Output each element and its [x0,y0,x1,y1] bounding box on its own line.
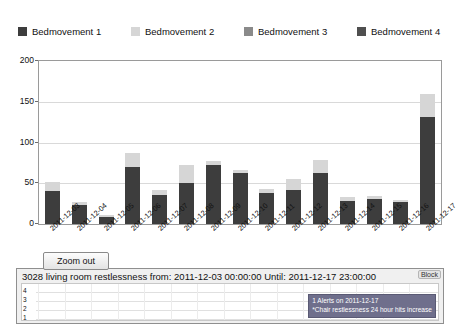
y-tick-label: 200 [20,55,34,65]
lower-panel-title: 3028 living room restlessness from: 2011… [22,271,376,282]
bar-group[interactable] [286,61,301,224]
y-tick-label: 50 [25,177,34,187]
legend-swatch-bedmovement-2 [131,27,140,36]
plot-area [38,60,442,225]
alert-tooltip-line1: 1 Alerts on 2011-12-17 [312,297,432,306]
block-tab[interactable]: Block [418,270,441,279]
mini-vertical-line [303,284,304,320]
bar-group[interactable] [45,61,60,224]
bar-segment[interactable] [420,94,435,118]
bar-segment[interactable] [286,179,301,190]
bar-segment[interactable] [259,189,274,193]
bar-segment[interactable] [179,165,194,183]
mini-vertical-line [38,284,39,320]
bar-group[interactable] [340,61,355,224]
legend-item-bedmovement-1[interactable]: Bedmovement 1 [18,24,101,38]
legend-swatch-bedmovement-1 [18,27,27,36]
legend-label-bedmovement-2: Bedmovement 2 [145,26,214,37]
bar-group[interactable] [152,61,167,224]
mini-vertical-line [91,284,92,320]
bar-group[interactable] [125,61,140,224]
bar-group[interactable] [206,61,221,224]
mini-y-tick-label: 4 [23,287,27,294]
chart-page: Bedmovement 1 Bedmovement 2 Bedmovement … [0,0,460,329]
chart-legend: Bedmovement 1 Bedmovement 2 Bedmovement … [18,24,450,40]
mini-vertical-line [197,284,198,320]
bar-group[interactable] [393,61,408,224]
bar-group[interactable] [233,61,248,224]
mini-y-tick-label: 2 [23,305,27,312]
legend-item-bedmovement-3[interactable]: Bedmovement 3 [244,24,327,38]
bar-segment[interactable] [206,161,221,164]
mini-vertical-line [277,284,278,320]
mini-y-tick-label: 1 [23,314,27,321]
y-axis: 050100150200 [0,55,38,230]
legend-swatch-bedmovement-3 [244,27,253,36]
bar-group[interactable] [72,61,87,224]
bar-group[interactable] [259,61,274,224]
alert-tooltip: 1 Alerts on 2011-12-17 *Chair restlessne… [308,294,436,318]
bar-series-layer [39,61,441,224]
bar-segment[interactable] [233,170,248,172]
mini-vertical-line [250,284,251,320]
bar-group[interactable] [367,61,382,224]
alert-tooltip-line2: *Chair restlessness 24 hour hits increas… [312,306,432,315]
mini-gridline [36,292,438,293]
y-tick-label: 150 [20,96,34,106]
bar-segment[interactable] [313,160,328,173]
legend-swatch-bedmovement-4 [357,27,366,36]
mini-vertical-line [144,284,145,320]
legend-item-bedmovement-4[interactable]: Bedmovement 4 [357,24,440,38]
mini-vertical-line [118,284,119,320]
mini-vertical-line [224,284,225,320]
bar-segment[interactable] [340,197,355,201]
bar-group[interactable] [420,61,435,224]
legend-label-bedmovement-4: Bedmovement 4 [371,26,440,37]
bar-segment[interactable] [125,153,140,167]
legend-label-bedmovement-1: Bedmovement 1 [32,26,101,37]
bar-segment[interactable] [152,190,167,196]
bar-group[interactable] [99,61,114,224]
bar-segment[interactable] [367,196,382,199]
legend-label-bedmovement-3: Bedmovement 3 [258,26,327,37]
lower-panel: Zoom out 3028 living room restlessness f… [16,268,444,324]
bar-segment[interactable] [125,167,140,224]
bar-segment[interactable] [45,182,60,192]
bar-group[interactable] [313,61,328,224]
mini-gridline [36,319,438,320]
mini-chart[interactable]: 4321 1 Alerts on 2011-12-17 *Chair restl… [21,283,439,321]
bar-group[interactable] [179,61,194,224]
legend-item-bedmovement-2[interactable]: Bedmovement 2 [131,24,214,38]
y-tick-label: 100 [20,137,34,147]
mini-vertical-line [65,284,66,320]
zoom-out-button[interactable]: Zoom out [43,252,109,270]
y-tick-label: 0 [29,218,34,228]
bar-segment[interactable] [206,165,221,224]
mini-y-tick-label: 3 [23,296,27,303]
mini-vertical-line [171,284,172,320]
